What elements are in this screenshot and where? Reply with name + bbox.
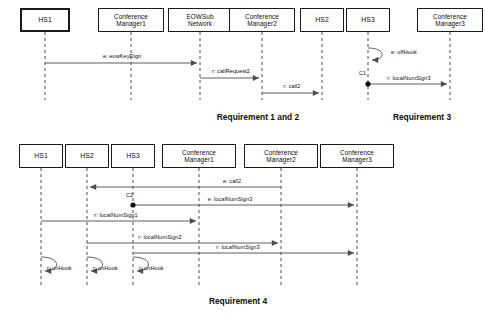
lifeline-label: Conference Manager3 — [433, 13, 467, 27]
condition-label: C2 — [126, 192, 133, 198]
self-message-label: r: onHook — [139, 265, 164, 271]
lifeline-label: HS2 — [315, 16, 329, 24]
lifeline-box-conferencemanager1[interactable]: Conference Manager1 — [162, 144, 236, 168]
lifeline-box-hs3[interactable]: HS3 — [346, 8, 390, 32]
lifeline-label: Conference Manager2 — [264, 149, 298, 163]
diagram-caption-requirement-3: Requirement 3 — [393, 112, 451, 122]
condition-dot — [365, 81, 370, 86]
lifeline-label: Conference Manager1 — [114, 13, 148, 27]
lifeline-box-eowsubnetwork[interactable]: EOWSub Network — [168, 8, 232, 32]
lifeline-label: HS3 — [361, 16, 375, 24]
message-label: r: localNumSign2 — [138, 234, 181, 240]
message-label: r: localNumSign1 — [94, 212, 137, 218]
lifeline-box-conferencemanager1[interactable]: Conference Manager1 — [98, 8, 164, 32]
diagram-caption-requirement-1-and-2: Requirement 1 and 2 — [217, 112, 299, 122]
message-label: e: eowKeyDigit — [103, 53, 141, 59]
message-label: r: localNumSign3 — [216, 244, 259, 250]
lifeline-box-conferencemanager2[interactable]: Conference Manager2 — [229, 8, 295, 32]
diagram-caption-requirement-4: Requirement 4 — [209, 296, 267, 306]
self-message-loop — [368, 48, 382, 60]
message-label: e: call2 — [223, 178, 241, 184]
self-message-label: r: onHook — [93, 265, 118, 271]
lifeline-box-conferencemanager3[interactable]: Conference Manager3 — [417, 8, 483, 32]
lifeline-box-hs2[interactable]: HS2 — [300, 8, 344, 32]
message-label: r: localNumSign3 — [387, 75, 430, 81]
message-label: r: callRequest2 — [212, 68, 250, 74]
self-message-label: e: offHook — [391, 49, 417, 55]
lifeline-box-hs1[interactable]: HS1 — [20, 8, 70, 32]
lifeline-box-conferencemanager2[interactable]: Conference Manager2 — [244, 144, 318, 168]
sequence-diagram-figure: HS1Conference Manager1EOWSub NetworkConf… — [0, 0, 485, 323]
lifeline-label: HS1 — [38, 16, 52, 24]
self-message-label: r: onHook — [47, 265, 72, 271]
lifeline-label: HS2 — [80, 152, 94, 160]
lifeline-label: HS3 — [126, 152, 140, 160]
lifeline-label: EOWSub Network — [186, 13, 213, 27]
condition-dot — [130, 202, 135, 207]
lifeline-label: Conference Manager3 — [340, 149, 374, 163]
lifeline-label: HS1 — [34, 152, 48, 160]
lifeline-box-conferencemanager3[interactable]: Conference Manager3 — [320, 144, 394, 168]
message-label: e: localNumSign3 — [208, 196, 253, 202]
message-label: r: call2 — [284, 83, 301, 89]
condition-label: C1 — [359, 70, 366, 76]
lifeline-box-hs2[interactable]: HS2 — [65, 144, 109, 168]
lifeline-box-hs1[interactable]: HS1 — [19, 144, 63, 168]
lifeline-label: Conference Manager2 — [245, 13, 279, 27]
lifeline-label: Conference Manager1 — [182, 149, 216, 163]
lifeline-box-hs3[interactable]: HS3 — [111, 144, 155, 168]
